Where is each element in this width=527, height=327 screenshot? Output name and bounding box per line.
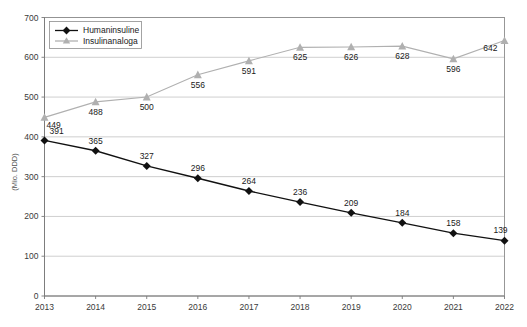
data-label: 139 [493,225,507,235]
x-tick-label: 2021 [444,302,463,312]
data-label: 556 [191,80,205,90]
chart-background [0,0,527,327]
x-tick-label: 2016 [188,302,207,312]
data-label: 209 [344,198,358,208]
y-tick-label: 600 [24,52,38,62]
y-tick-label: 0 [34,291,39,301]
chart-canvas: 0100200300400500600700 20132014201520162… [0,0,527,327]
data-label: 184 [395,208,409,218]
y-tick-label: 200 [24,211,38,221]
y-tick-label: 100 [24,251,38,261]
x-tick-label: 2015 [137,302,156,312]
data-label: 626 [344,52,358,62]
x-tick-label: 2013 [35,302,54,312]
data-label: 449 [47,120,61,130]
x-tick-label: 2019 [342,302,361,312]
y-axis-title: (Mio. DDD) [10,153,19,191]
data-label: 596 [446,64,460,74]
legend-label-insulinanaloga: Insulinanaloga [83,36,138,46]
data-label: 488 [89,107,103,117]
data-label: 642 [483,43,497,53]
x-tick-label: 2018 [291,302,310,312]
x-tick-label: 2014 [86,302,105,312]
data-label: 158 [446,218,460,228]
x-tick-label: 2020 [393,302,412,312]
x-tick-label: 2022 [495,302,514,312]
y-tick-label: 700 [24,13,38,23]
data-label: 628 [395,51,409,61]
legend-label-humaninsuline: Humaninsuline [83,25,139,35]
data-label: 236 [293,187,307,197]
y-tick-label: 400 [24,132,38,142]
y-tick-label: 500 [24,92,38,102]
data-label: 625 [293,52,307,62]
data-label: 500 [140,102,154,112]
data-label: 296 [191,163,205,173]
data-label: 365 [89,136,103,146]
x-tick-label: 2017 [239,302,258,312]
data-label: 264 [242,176,256,186]
chart-legend[interactable]: Humaninsuline Insulinanaloga [50,22,142,49]
y-tick-label: 300 [24,172,38,182]
data-label: 591 [242,66,256,76]
line-chart: 0100200300400500600700 20132014201520162… [0,0,527,327]
data-label: 327 [140,151,154,161]
